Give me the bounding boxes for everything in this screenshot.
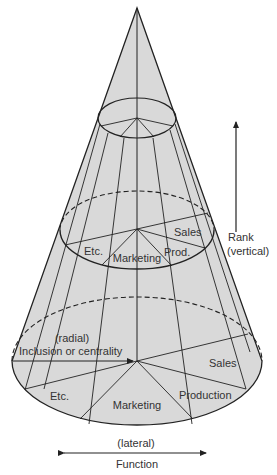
cone-figure: Etc. Marketing Prod. Sales Etc. Marketin… xyxy=(0,0,277,475)
lateral-label-bottom: Function xyxy=(116,458,158,470)
rank-label-top: Rank xyxy=(228,231,254,243)
radial-label-bottom: Inclusion or centrality xyxy=(19,345,123,357)
base-label-etc: Etc. xyxy=(50,390,69,402)
base-label-production: Production xyxy=(179,389,232,401)
mid-label-sales: Sales xyxy=(174,226,202,238)
mid-label-etc: Etc. xyxy=(84,245,103,257)
rank-label-bottom: (vertical) xyxy=(227,245,269,257)
base-label-sales: Sales xyxy=(209,357,237,369)
mid-label-prod: Prod. xyxy=(164,246,190,258)
radial-label-top: (radial) xyxy=(55,332,89,344)
lateral-label-top: (lateral) xyxy=(117,437,154,449)
mid-label-marketing: Marketing xyxy=(113,252,161,264)
organizational-cone-diagram: Etc. Marketing Prod. Sales Etc. Marketin… xyxy=(0,0,277,475)
base-label-marketing: Marketing xyxy=(113,399,161,411)
